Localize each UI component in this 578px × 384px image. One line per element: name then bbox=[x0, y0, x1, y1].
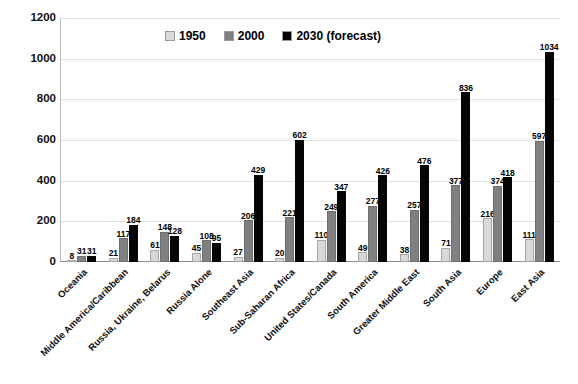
bar-group: 21117184 bbox=[103, 18, 145, 262]
bar-group: 110249347 bbox=[310, 18, 352, 262]
bar-value-label: 426 bbox=[376, 167, 390, 176]
bar-value-label: 20 bbox=[275, 249, 284, 258]
bar[interactable]: 31 bbox=[77, 256, 86, 262]
bar[interactable]: 61 bbox=[150, 250, 159, 262]
bar[interactable]: 249 bbox=[327, 211, 336, 262]
bar-value-label: 21 bbox=[109, 249, 118, 258]
bar-group: 49277426 bbox=[352, 18, 394, 262]
bar[interactable]: 117 bbox=[119, 238, 128, 262]
bar[interactable]: 377 bbox=[451, 185, 460, 262]
bar[interactable]: 38 bbox=[400, 254, 409, 262]
bar-group: 83131 bbox=[61, 18, 103, 262]
y-tick: 800 bbox=[0, 93, 56, 105]
bar[interactable]: 418 bbox=[503, 177, 512, 262]
y-tick-label: 0 bbox=[2, 256, 56, 268]
bar-value-label: 45 bbox=[192, 244, 201, 253]
bar-value-label: 1034 bbox=[540, 43, 559, 52]
y-tick: 1000 bbox=[0, 53, 56, 65]
bar-group: 38257476 bbox=[394, 18, 436, 262]
bar-group: 20221602 bbox=[269, 18, 311, 262]
bar[interactable]: 216 bbox=[483, 218, 492, 262]
bar-value-label: 602 bbox=[293, 131, 307, 140]
y-tick: 0 bbox=[0, 256, 56, 268]
bar[interactable]: 429 bbox=[254, 175, 263, 262]
y-tick: 1200 bbox=[0, 12, 56, 24]
x-axis-tick: Russia Alone bbox=[186, 263, 228, 383]
bar-group: 216374418 bbox=[477, 18, 519, 262]
bar[interactable]: 206 bbox=[244, 220, 253, 262]
bar-value-label: 418 bbox=[500, 169, 514, 178]
y-tick: 600 bbox=[0, 134, 56, 146]
y-tick-label: 1200 bbox=[2, 12, 56, 24]
y-tick-label: 600 bbox=[2, 134, 56, 146]
bar[interactable]: 45 bbox=[192, 253, 201, 262]
bar[interactable]: 95 bbox=[212, 243, 221, 262]
bar-value-label: 128 bbox=[168, 227, 182, 236]
bar-value-label: 27 bbox=[233, 248, 242, 257]
bar[interactable]: 31 bbox=[87, 256, 96, 262]
bar-value-label: 38 bbox=[400, 246, 409, 255]
bar[interactable]: 111 bbox=[525, 239, 534, 262]
x-axis-tick: Europe bbox=[477, 263, 519, 383]
bar-groups: 8313121117184611481284510895272064292022… bbox=[61, 18, 560, 262]
bar[interactable]: 108 bbox=[202, 240, 211, 262]
bar[interactable]: 27 bbox=[234, 257, 243, 262]
bar-value-label: 476 bbox=[417, 157, 431, 166]
bar-value-label: 49 bbox=[358, 244, 367, 253]
y-tick-label: 1000 bbox=[2, 53, 56, 65]
x-axis-label: Oceania bbox=[56, 267, 89, 300]
bar[interactable]: 374 bbox=[493, 186, 502, 262]
bar[interactable]: 277 bbox=[368, 206, 377, 262]
bar[interactable]: 49 bbox=[358, 252, 367, 262]
x-axis-label: Europe bbox=[474, 267, 504, 297]
y-tick-label: 800 bbox=[2, 93, 56, 105]
x-axis-tick: East Asia bbox=[518, 263, 560, 383]
bar[interactable]: 8 bbox=[67, 260, 76, 262]
bar-group: 4510895 bbox=[186, 18, 228, 262]
bar-value-label: 71 bbox=[441, 239, 450, 248]
bar[interactable]: 110 bbox=[317, 240, 326, 262]
bar[interactable]: 836 bbox=[461, 92, 470, 262]
bar-chart: 020040060080010001200 195020002030 (fore… bbox=[0, 0, 578, 384]
bar[interactable]: 71 bbox=[441, 248, 450, 262]
bar-group: 71377836 bbox=[435, 18, 477, 262]
x-axis-tick: Greater Middle East bbox=[394, 263, 436, 383]
bar[interactable]: 597 bbox=[535, 141, 544, 262]
bar[interactable]: 347 bbox=[337, 191, 346, 262]
bar-group: 27206429 bbox=[227, 18, 269, 262]
bar[interactable]: 128 bbox=[170, 236, 179, 262]
bar-value-label: 429 bbox=[251, 166, 265, 175]
y-tick: 400 bbox=[0, 175, 56, 187]
x-axis-tick: United States/Canada bbox=[310, 263, 352, 383]
bar-group: 61148128 bbox=[144, 18, 186, 262]
y-tick-label: 400 bbox=[2, 175, 56, 187]
x-axis-tick: South Asia bbox=[435, 263, 477, 383]
bar-value-label: 836 bbox=[459, 84, 473, 93]
bar[interactable]: 602 bbox=[295, 140, 304, 262]
bar[interactable]: 1034 bbox=[545, 52, 554, 262]
bar[interactable]: 476 bbox=[420, 165, 429, 262]
bar-value-label: 61 bbox=[150, 241, 159, 250]
bar[interactable]: 426 bbox=[378, 175, 387, 262]
bar[interactable]: 257 bbox=[410, 210, 419, 262]
bar-group: 1115971034 bbox=[518, 18, 560, 262]
bar[interactable]: 184 bbox=[129, 225, 138, 262]
bar[interactable]: 20 bbox=[275, 258, 284, 262]
y-tick-label: 200 bbox=[2, 215, 56, 227]
bar-value-label: 347 bbox=[334, 183, 348, 192]
bar-value-label: 31 bbox=[77, 247, 86, 256]
bar[interactable]: 21 bbox=[109, 258, 118, 262]
bar-value-label: 31 bbox=[87, 247, 96, 256]
bar[interactable]: 221 bbox=[285, 217, 294, 262]
bar-value-label: 95 bbox=[212, 234, 221, 243]
x-axis-labels: OceaniaMiddle America/CaribbeanRussia, U… bbox=[61, 263, 560, 383]
y-tick: 200 bbox=[0, 215, 56, 227]
x-axis-tick: Russia, Ukraine, Belarus bbox=[144, 263, 186, 383]
bar-value-label: 184 bbox=[126, 216, 140, 225]
bar-value-label: 8 bbox=[69, 252, 74, 261]
